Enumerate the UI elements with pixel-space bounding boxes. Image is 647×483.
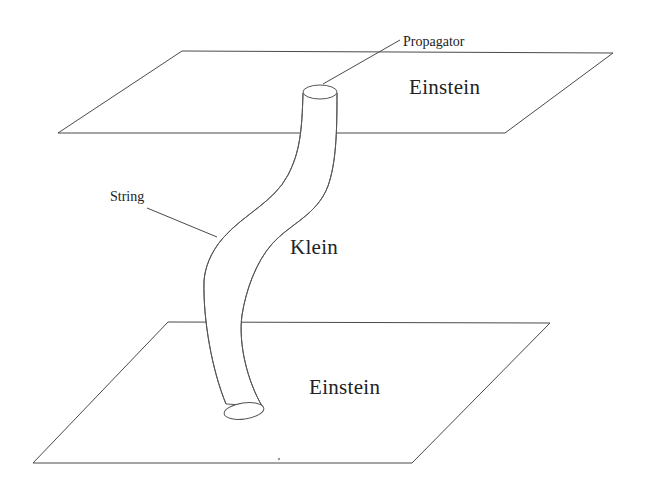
top-einstein-label: Einstein xyxy=(409,75,480,99)
string-leader-line xyxy=(147,208,217,237)
paper-speck xyxy=(278,458,280,460)
diagram-svg: Propagator String Einstein Klein Einstei… xyxy=(0,0,647,483)
propagator-leader-line xyxy=(323,40,400,84)
bottom-einstein-label: Einstein xyxy=(309,375,380,399)
bottom-einstein-plane xyxy=(33,322,550,463)
figure-canvas: Propagator String Einstein Klein Einstei… xyxy=(0,0,647,483)
string-label: String xyxy=(110,189,144,204)
klein-label: Klein xyxy=(290,235,338,259)
tube-top-cap xyxy=(303,85,337,99)
propagator-label: Propagator xyxy=(403,34,465,49)
